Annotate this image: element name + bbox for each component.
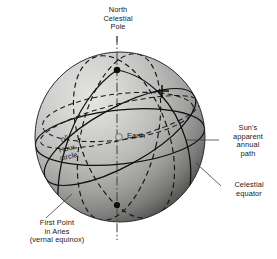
label-north-celestial-pole: North Celestial Pole [90, 6, 146, 32]
celestial-sphere-figure: North Celestial Pole Sun's apparent annu… [0, 0, 277, 259]
leader-celestial-equator [196, 163, 221, 186]
label-first-point-in-aries: First Point in Aries (vernal equinox) [5, 219, 109, 245]
leader-first-point-aries [46, 194, 72, 218]
north-pole-dot [114, 67, 121, 74]
label-suns-apparent-annual-path: Sun's apparent annual path [221, 124, 275, 158]
label-earth: Earth [127, 132, 159, 141]
earth-dot [116, 134, 123, 141]
south-pole-dot [114, 202, 120, 208]
label-celestial-equator: Celestial equator [223, 181, 275, 198]
